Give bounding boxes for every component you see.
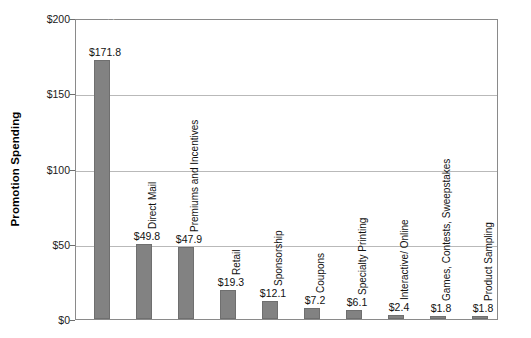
y-tick-mark xyxy=(69,320,75,321)
bar-group[interactable]: $19.3Retail xyxy=(210,20,252,319)
category-label: Interactive/ Online xyxy=(400,220,410,301)
bar-group[interactable]: $6.1Specialty Printing xyxy=(336,20,378,319)
category-label: Product Sampling xyxy=(484,222,494,301)
y-tick-label: $100 xyxy=(4,164,70,176)
category-label: Event Marketing xyxy=(106,0,116,45)
y-tick-label: $150 xyxy=(4,88,70,100)
bar-group[interactable]: $171.8Event Marketing xyxy=(84,20,126,319)
bar[interactable] xyxy=(136,244,152,319)
bar[interactable] xyxy=(262,301,278,319)
y-tick-label: $0 xyxy=(4,314,70,326)
y-tick-label: $200 xyxy=(4,13,70,25)
bar-chart: Promotion Spending $200$150$100$50$0 $17… xyxy=(0,0,531,338)
category-label: Retail xyxy=(232,249,242,275)
bar-group[interactable]: $1.8Product Sampling xyxy=(462,20,504,319)
bar-group[interactable]: $7.2Coupons xyxy=(294,20,336,319)
bar[interactable] xyxy=(304,308,320,319)
bar[interactable] xyxy=(220,290,236,319)
category-label: Games, Contests, Sweepstakes xyxy=(442,159,452,301)
category-label: Direct Mail xyxy=(148,182,158,229)
bar-group[interactable]: $47.9Premiums and Incentives xyxy=(168,20,210,319)
bar[interactable] xyxy=(346,310,362,319)
category-label: Coupons xyxy=(316,253,326,293)
category-label: Sponsorship xyxy=(274,230,284,286)
bar-value-label: $1.8 xyxy=(452,302,514,314)
category-label: Premiums and Incentives xyxy=(190,120,200,232)
bar[interactable] xyxy=(178,247,194,319)
y-tick-label: $50 xyxy=(4,239,70,251)
bar[interactable] xyxy=(388,315,404,319)
bar-group[interactable]: $1.8Games, Contests, Sweepstakes xyxy=(420,20,462,319)
plot-area: $171.8Event Marketing$49.8Direct Mail$47… xyxy=(75,19,498,320)
bar-group[interactable]: $49.8Direct Mail xyxy=(126,20,168,319)
y-axis-ticks: $200$150$100$50$0 xyxy=(0,19,70,320)
bar[interactable] xyxy=(472,316,488,319)
bar[interactable] xyxy=(94,60,110,319)
bar[interactable] xyxy=(430,316,446,319)
bar-group[interactable]: $12.1Sponsorship xyxy=(252,20,294,319)
category-label: Specialty Printing xyxy=(358,218,368,295)
bar-group[interactable]: $2.4Interactive/ Online xyxy=(378,20,420,319)
